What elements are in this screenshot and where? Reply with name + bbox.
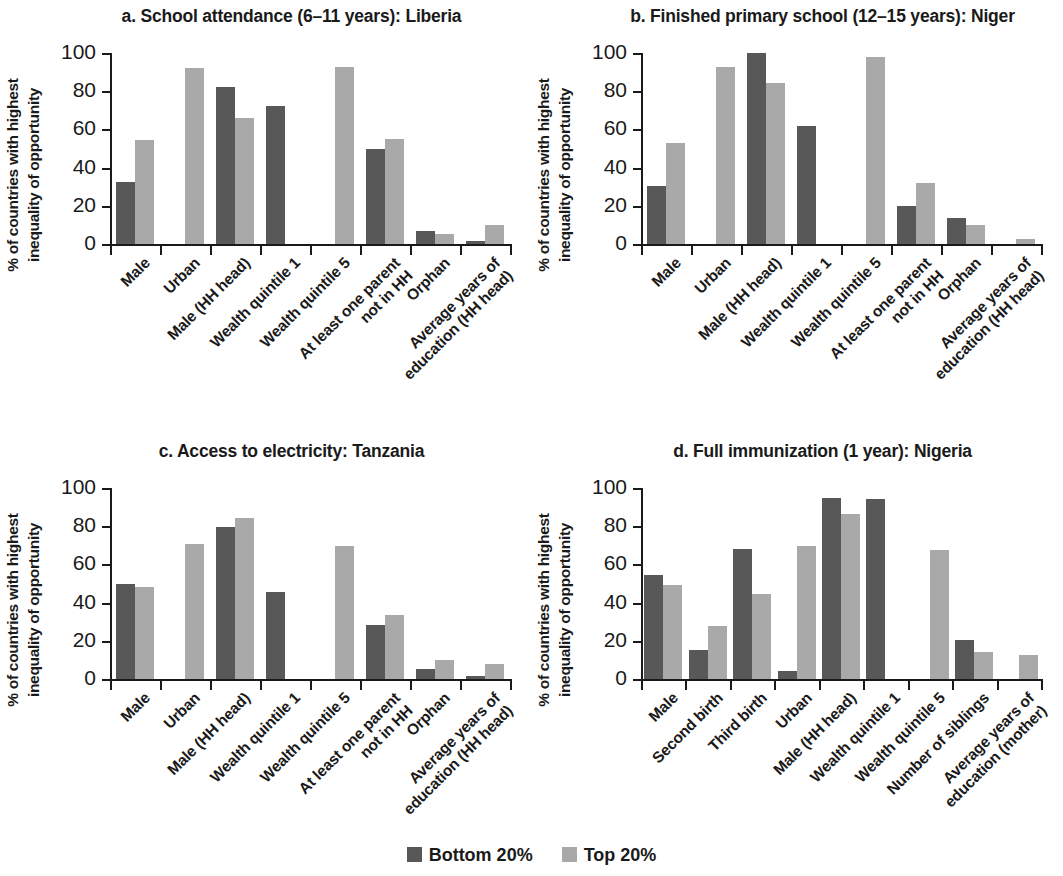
y-axis-tick-label: 80 (73, 78, 96, 102)
bar (866, 57, 885, 244)
y-axis-label-line2: inequality of opportunity (23, 510, 44, 710)
y-axis-label-line1: % of countries with highest (533, 510, 554, 710)
bar (955, 640, 974, 679)
panel-c-title: c. Access to electricity: Tanzania (60, 441, 523, 462)
bar (466, 241, 485, 244)
y-axis-label-line2: inequality of opportunity (554, 75, 575, 275)
legend-item-top-20: Top 20% (562, 845, 657, 866)
bar (822, 498, 841, 679)
bar-group (1000, 488, 1038, 679)
bar-group (911, 488, 949, 679)
y-axis-label-line1: % of countries with highest (533, 75, 554, 275)
bar-group (366, 53, 404, 244)
bar (485, 664, 504, 679)
bar-group (747, 53, 785, 244)
bar-group (416, 488, 454, 679)
bar (116, 182, 135, 244)
y-axis-tick-mark (102, 53, 110, 55)
y-axis-tick-mark (102, 526, 110, 528)
y-axis-tick-label: 100 (61, 40, 96, 64)
y-axis-tick-label: 0 (84, 231, 96, 255)
y-axis-tick-label: 40 (604, 590, 627, 614)
bar-group (116, 488, 154, 679)
bar-group (116, 53, 154, 244)
y-axis-tick-mark (633, 244, 641, 246)
y-axis-tick-mark (102, 564, 110, 566)
bar (708, 626, 727, 679)
bar-group (847, 53, 885, 244)
bar (897, 206, 916, 244)
panel-a-x-axis-labels: MaleUrbanMale (HH head)Wealth quintile 1… (110, 246, 530, 396)
bar (647, 186, 666, 244)
y-axis-tick-label: 80 (604, 513, 627, 537)
bar (1016, 239, 1035, 244)
bar-group (416, 53, 454, 244)
bar (644, 575, 663, 679)
bar-group (466, 53, 504, 244)
bar (416, 669, 435, 679)
bar (385, 615, 404, 679)
bar (663, 585, 682, 679)
y-axis-tick-mark (102, 168, 110, 170)
y-axis-tick-mark (102, 603, 110, 605)
y-axis-line (641, 488, 643, 679)
legend-label-bottom: Bottom 20% (429, 845, 533, 865)
y-axis-tick-mark (633, 564, 641, 566)
y-axis-label-line2: inequality of opportunity (554, 510, 575, 710)
panel-d-y-axis-label: % of countries with highest inequality o… (533, 510, 579, 710)
y-axis-label-line1: % of countries with highest (2, 510, 23, 710)
y-axis-tick-mark (633, 168, 641, 170)
legend: Bottom 20% Top 20% (0, 845, 1063, 866)
bar (135, 587, 154, 679)
bar (733, 549, 752, 679)
y-axis-tick-label: 40 (73, 590, 96, 614)
panel-d: d. Full immunization (1 year): Nigeria %… (531, 435, 1062, 870)
legend-label-top: Top 20% (584, 845, 657, 865)
bar-group (689, 488, 727, 679)
panel-b-plot-area: 020406080100 (641, 53, 1041, 244)
bar-group (316, 53, 354, 244)
bar (335, 546, 354, 679)
y-axis-tick-mark (633, 129, 641, 131)
bar (435, 660, 454, 679)
y-axis-tick-label: 100 (592, 475, 627, 499)
y-axis-tick-mark (633, 679, 641, 681)
bar (716, 67, 735, 244)
bar-group (466, 488, 504, 679)
panel-b: b. Finished primary school (12–15 years)… (531, 0, 1062, 435)
bar-group (997, 53, 1035, 244)
y-axis-tick-label: 60 (73, 551, 96, 575)
bar (466, 676, 485, 679)
panel-b-x-axis-labels: MaleUrbanMale (HH head)Wealth quintile 1… (641, 246, 1061, 396)
bar-group (822, 488, 860, 679)
bar-group (216, 53, 254, 244)
figure-root: a. School attendance (6–11 years): Liber… (0, 0, 1063, 876)
y-axis-tick-mark (102, 91, 110, 93)
y-axis-tick-mark (633, 603, 641, 605)
y-axis-tick-label: 100 (592, 40, 627, 64)
bar (866, 499, 885, 679)
bar (666, 143, 685, 244)
panel-b-y-axis-label: % of countries with highest inequality o… (533, 75, 579, 275)
bar (266, 106, 285, 244)
y-axis-tick-mark (102, 244, 110, 246)
bar-group (216, 488, 254, 679)
bar-group (366, 488, 404, 679)
panel-c-plot-area: 020406080100 (110, 488, 510, 679)
panel-c: c. Access to electricity: Tanzania % of … (0, 435, 531, 870)
y-axis-tick-mark (633, 641, 641, 643)
bar-group (797, 53, 835, 244)
bar (916, 183, 935, 244)
panel-b-title: b. Finished primary school (12–15 years)… (591, 6, 1054, 27)
y-axis-tick-mark (102, 488, 110, 490)
panel-a-y-axis-label: % of countries with highest inequality o… (2, 75, 48, 275)
bar-group (316, 488, 354, 679)
legend-swatch-top-icon (562, 847, 577, 862)
bar (216, 87, 235, 244)
y-axis-tick-label: 60 (73, 116, 96, 140)
bar-group (266, 53, 304, 244)
bar (116, 584, 135, 679)
bar-group (778, 488, 816, 679)
y-axis-tick-label: 0 (84, 666, 96, 690)
bar (974, 652, 993, 679)
